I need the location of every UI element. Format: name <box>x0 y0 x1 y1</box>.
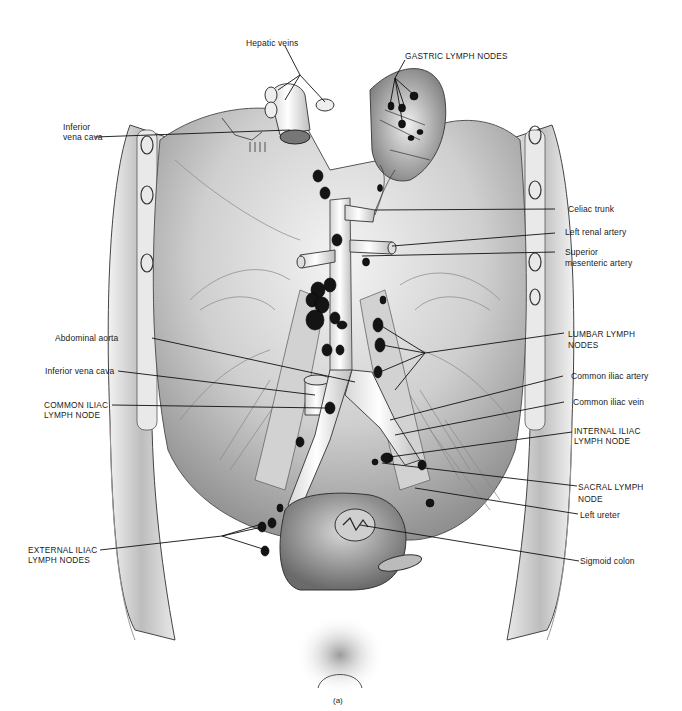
label-superior-mesenteric-artery-line2: mesenteric artery <box>565 258 632 268</box>
abdomen-illustration <box>0 0 682 711</box>
label-gastric-lymph-nodes: GASTRIC LYMPH NODES <box>405 51 508 61</box>
label-hepatic-veins: Hepatic veins <box>246 38 298 48</box>
sigmoid-colon-section <box>335 509 375 541</box>
label-inferior-vena-cava-top-line1: Inferior <box>63 122 90 132</box>
label-external-iliac-lymph-nodes-line1: EXTERNAL ILIAC <box>28 545 97 555</box>
label-lumbar-lymph-nodes-line2: NODES <box>568 340 599 350</box>
label-common-iliac-lymph-node-line2: LYMPH NODE <box>44 410 100 420</box>
label-common-iliac-artery: Common iliac artery <box>571 371 648 381</box>
pelvic-cavity <box>280 493 406 590</box>
label-common-iliac-vein: Common iliac vein <box>573 397 644 407</box>
figure-caption: (a) <box>333 696 343 705</box>
label-superior-mesenteric-artery-line1: Superior <box>565 247 598 257</box>
label-left-renal-artery: Left renal artery <box>565 227 626 237</box>
anatomy-figure: Hepatic veins GASTRIC LYMPH NODES Inferi… <box>0 0 682 711</box>
label-inferior-vena-cava-top-line2: vena cava <box>63 132 103 142</box>
label-internal-iliac-lymph-node-line1: INTERNAL ILIAC <box>574 426 641 436</box>
label-internal-iliac-lymph-node-line2: LYMPH NODE <box>574 436 630 446</box>
label-external-iliac-lymph-nodes-line2: LYMPH NODES <box>28 555 90 565</box>
label-common-iliac-lymph-node-line1: COMMON ILIAC <box>44 400 108 410</box>
label-celiac-trunk: Celiac trunk <box>568 204 614 214</box>
label-sacral-lymph-node-line1: SACRAL LYMPH <box>578 482 644 492</box>
label-left-ureter: Left ureter <box>580 510 620 520</box>
label-abdominal-aorta: Abdominal aorta <box>55 333 118 343</box>
label-sacral-lymph-node-line2: NODE <box>578 494 603 504</box>
label-lumbar-lymph-nodes-line1: LUMBAR LYMPH <box>568 329 635 339</box>
label-inferior-vena-cava-mid: Inferior vena cava <box>45 366 114 376</box>
label-sigmoid-colon: Sigmoid colon <box>580 556 635 566</box>
